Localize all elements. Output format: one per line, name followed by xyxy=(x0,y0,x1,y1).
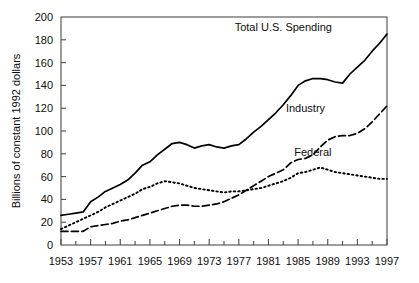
x-axis-tick-labels: 1953195719611965196919731977198119851989… xyxy=(49,255,399,267)
x-tick-label: 1973 xyxy=(197,255,221,267)
x-tick-label: 1989 xyxy=(315,255,339,267)
y-tick-label: 180 xyxy=(35,34,53,46)
x-tick-label: 1985 xyxy=(286,255,310,267)
x-tick-label: 1997 xyxy=(375,255,399,267)
y-axis-tick-marks xyxy=(61,40,66,222)
y-tick-label: 140 xyxy=(35,79,53,91)
series-label-federal: Federal xyxy=(294,146,331,158)
rd-spending-line-chart: 020406080100120140160180200 195319571961… xyxy=(0,0,419,283)
x-tick-label: 1993 xyxy=(345,255,369,267)
y-tick-label: 100 xyxy=(35,125,53,137)
x-tick-label: 1969 xyxy=(167,255,191,267)
x-tick-label: 1953 xyxy=(49,255,73,267)
x-tick-label: 1965 xyxy=(138,255,162,267)
y-tick-label: 120 xyxy=(35,102,53,114)
chart-canvas: 020406080100120140160180200 195319571961… xyxy=(0,0,419,283)
y-tick-label: 80 xyxy=(41,148,53,160)
series-line-total-u-s-spending xyxy=(61,34,387,215)
x-tick-label: 1961 xyxy=(108,255,132,267)
x-tick-label: 1977 xyxy=(227,255,251,267)
series-annotation-labels: Total U.S. SpendingIndustryFederal xyxy=(235,21,332,158)
series-label-total-u-s-spending: Total U.S. Spending xyxy=(235,21,332,33)
data-series-group xyxy=(61,34,387,231)
y-tick-label: 0 xyxy=(47,239,53,251)
plot-area-border xyxy=(61,17,387,245)
x-tick-label: 1957 xyxy=(78,255,102,267)
y-tick-label: 160 xyxy=(35,57,53,69)
y-tick-label: 60 xyxy=(41,171,53,183)
y-axis-title: Billions of constant 1992 dollars xyxy=(10,53,22,208)
series-line-industry xyxy=(61,106,387,231)
y-tick-label: 40 xyxy=(41,193,53,205)
x-tick-label: 1981 xyxy=(256,255,280,267)
y-axis-tick-labels: 020406080100120140160180200 xyxy=(35,11,53,251)
series-line-federal xyxy=(61,167,387,229)
y-tick-label: 200 xyxy=(35,11,53,23)
plot-frame xyxy=(61,17,387,245)
series-label-industry: Industry xyxy=(286,102,326,114)
y-tick-label: 20 xyxy=(41,216,53,228)
